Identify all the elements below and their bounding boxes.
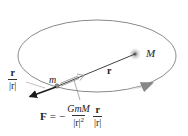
- formula-frac2-numerator: r: [94, 105, 100, 116]
- radius-vector-line: [58, 54, 135, 86]
- large-mass-label: M: [146, 48, 155, 59]
- force-arrow: [30, 87, 56, 97]
- unit-label-leader-line: [26, 82, 45, 88]
- unit-vector-numerator: r: [9, 68, 15, 79]
- formula-frac1-denominator: |r|2: [72, 115, 85, 128]
- unit-vector-denominator: |r|: [8, 79, 17, 91]
- formula-fraction-gmm: GmM |r|2: [66, 104, 91, 128]
- formula-frac1-den-exp: 2: [80, 116, 84, 124]
- formula-frac1-numerator: GmM: [66, 104, 91, 115]
- orbit-direction-arrow: [125, 83, 152, 90]
- formula-leader-line: [74, 80, 80, 100]
- formula-fraction-unit: r |r|: [93, 105, 102, 128]
- unit-vector-label: r |r|: [8, 68, 17, 91]
- force-formula: F = − GmM |r|2 r |r|: [40, 104, 103, 128]
- formula-equals: =: [50, 110, 56, 122]
- formula-frac2-denominator: |r|: [93, 116, 102, 128]
- formula-sign: −: [59, 110, 65, 122]
- small-mass-label: m: [49, 75, 56, 85]
- formula-lhs: F: [40, 110, 47, 122]
- radius-vector-label: r: [107, 66, 111, 76]
